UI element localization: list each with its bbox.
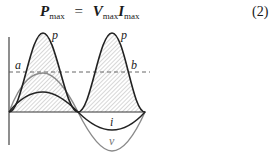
label-p-second: p [120,28,127,42]
label-v: v [109,134,115,148]
power-waveform-figure: p p a b i v [0,0,275,154]
label-i: i [110,115,113,129]
power-area-hatch [9,33,145,112]
label-a: a [15,58,21,72]
label-p-first: p [51,28,58,42]
label-b: b [131,58,137,72]
